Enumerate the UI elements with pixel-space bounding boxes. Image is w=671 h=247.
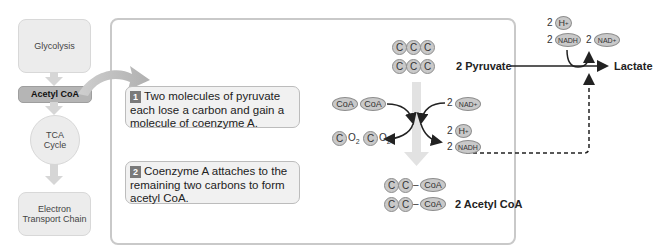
- main-arrow-stem: [412, 82, 421, 154]
- nadh-output: NADH: [455, 140, 481, 154]
- acetyl-coa-label: 2 Acetyl CoA: [455, 198, 522, 210]
- pyruvate-2-carbon-2: C: [406, 59, 421, 74]
- acetyl-coa-1-coa: CoA: [420, 178, 446, 192]
- lactate-nad-plus-text: NAD: [598, 37, 613, 44]
- pyruvate-2-carbon-1: C: [392, 59, 407, 74]
- acetyl-coa-2-coa: CoA: [420, 197, 446, 211]
- co2-2-sub: 2: [387, 138, 391, 145]
- lactate-nad-plus-sup: +: [613, 37, 617, 43]
- lactate-h-plus-coefficient: 2: [547, 17, 553, 28]
- co2-1-o: O: [348, 132, 356, 143]
- lactate-label: Lactate: [614, 60, 653, 72]
- pyruvate-label: 2 Pyruvate: [456, 60, 512, 72]
- pyruvate-1-carbon-3: C: [420, 40, 435, 55]
- nad-plus-input-text: NAD: [459, 101, 474, 108]
- co2-2-oxygen: O2: [379, 132, 391, 145]
- co2-1-sub: 2: [356, 138, 360, 145]
- lactate-h-plus: H+: [555, 16, 572, 30]
- coa-input-2: CoA: [360, 97, 386, 111]
- acetyl-coa-1-bond: –: [413, 179, 419, 190]
- h-plus-output-coefficient: 2: [447, 125, 453, 136]
- main-arrow-head: [404, 152, 429, 166]
- acetyl-coa-2-bond: –: [413, 198, 419, 209]
- pyruvate-2-carbon-3: C: [420, 59, 435, 74]
- nadh-output-coefficient: 2: [447, 141, 453, 152]
- acetyl-coa-1-carbon-2: C: [398, 178, 413, 193]
- acetyl-coa-2-carbon-1: C: [384, 197, 399, 212]
- pyruvate-1-carbon-2: C: [406, 40, 421, 55]
- acetyl-coa-1-carbon-1: C: [384, 178, 399, 193]
- lactate-nad-plus-coefficient: 2: [586, 34, 592, 45]
- h-plus-output-sup: +: [465, 128, 469, 134]
- co2-1-oxygen: O2: [348, 132, 360, 145]
- lactate-nadh: NADH: [555, 33, 581, 47]
- h-plus-output: H+: [455, 124, 472, 138]
- coa-input-1: CoA: [332, 97, 358, 111]
- nad-plus-input-sup: +: [474, 101, 478, 107]
- nad-plus-input: NAD+: [455, 97, 481, 111]
- co2-2-carbon: C: [363, 131, 378, 146]
- lactate-nad-plus: NAD+: [594, 33, 620, 47]
- acetyl-coa-2-carbon-2: C: [398, 197, 413, 212]
- co2-2-o: O: [379, 132, 387, 143]
- lactate-h-plus-sup: +: [565, 20, 569, 26]
- lactate-nadh-coefficient: 2: [547, 34, 553, 45]
- pyruvate-1-carbon-1: C: [392, 40, 407, 55]
- nad-input-coefficient: 2: [447, 97, 453, 108]
- co2-1-carbon: C: [332, 131, 347, 146]
